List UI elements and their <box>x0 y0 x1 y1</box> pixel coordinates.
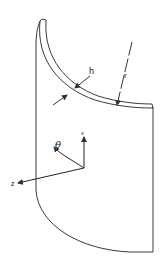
theta-label: θ <box>55 139 61 150</box>
theta-arc-arrow <box>54 147 84 168</box>
radius-label: r <box>124 71 127 80</box>
coordinate-axes <box>18 137 84 183</box>
shell-outline <box>36 19 153 252</box>
shell-top-inner-edge <box>46 22 152 104</box>
thickness-arrow-outer <box>75 76 90 88</box>
shell-bottom-edge <box>36 190 153 252</box>
z-axis-label: z <box>11 180 15 187</box>
diagram-canvas: r h x z θ <box>0 0 162 264</box>
shell-top-cap <box>40 19 46 22</box>
shell-diagram: r h x z θ <box>0 0 162 264</box>
x-axis-label: x <box>81 130 84 136</box>
z-axis-arrow <box>18 168 84 183</box>
thickness-arrow-inner <box>53 95 67 105</box>
thickness-label: h <box>89 66 94 76</box>
